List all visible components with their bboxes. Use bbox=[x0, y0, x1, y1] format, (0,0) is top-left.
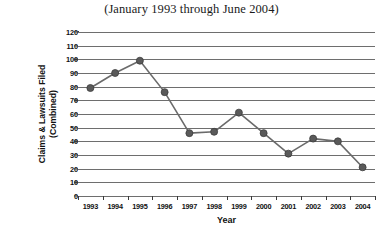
data-point-marker bbox=[235, 109, 242, 116]
x-axis-tick-mark bbox=[128, 196, 129, 200]
x-axis-tick-mark bbox=[152, 196, 153, 200]
x-axis-tick-label: 1994 bbox=[107, 202, 122, 211]
x-axis-tick-label: 2002 bbox=[305, 202, 320, 211]
data-point-marker bbox=[359, 164, 366, 171]
x-axis-tick-mark bbox=[103, 196, 104, 200]
data-point-marker bbox=[87, 85, 94, 92]
x-axis-tick-mark bbox=[177, 196, 178, 200]
data-point-marker bbox=[186, 130, 193, 137]
x-axis-tick-label: 1998 bbox=[206, 202, 221, 211]
data-point-marker bbox=[310, 135, 317, 142]
data-series-line bbox=[78, 32, 375, 196]
x-axis-tick-label: 2000 bbox=[256, 202, 271, 211]
data-point-marker bbox=[211, 128, 218, 135]
plot-area bbox=[78, 32, 375, 196]
x-axis-tick-mark bbox=[326, 196, 327, 200]
data-point-marker bbox=[334, 138, 341, 145]
data-point-marker bbox=[260, 130, 267, 137]
x-axis-tick-label: 1996 bbox=[157, 202, 172, 211]
data-point-marker bbox=[285, 150, 292, 157]
y-axis-ticks: 0102030405060708090100110120 bbox=[42, 0, 78, 236]
x-axis-tick-mark bbox=[276, 196, 277, 200]
x-axis-tick-label: 1995 bbox=[132, 202, 147, 211]
y-axis-title: Claims & Lawsuits Filed (Combined) bbox=[14, 30, 40, 198]
x-axis-tick-mark bbox=[301, 196, 302, 200]
x-axis-tick-label: 2001 bbox=[281, 202, 296, 211]
x-axis-tick-mark bbox=[227, 196, 228, 200]
data-point-marker bbox=[112, 70, 119, 77]
series-polyline bbox=[90, 61, 362, 168]
x-axis-tick-label: 1999 bbox=[231, 202, 246, 211]
x-axis-tick-label: 2004 bbox=[355, 202, 370, 211]
x-axis-tick-mark bbox=[375, 196, 376, 200]
x-axis-tick-mark bbox=[251, 196, 252, 200]
x-axis-tick-mark bbox=[350, 196, 351, 200]
data-point-marker bbox=[161, 89, 168, 96]
chart-root: (January 1993 through June 2004) Claims … bbox=[0, 0, 383, 236]
x-axis-tick-mark bbox=[202, 196, 203, 200]
x-axis-tick-label: 2003 bbox=[330, 202, 345, 211]
x-axis-tick-mark bbox=[78, 196, 79, 200]
x-axis-tick-label: 1997 bbox=[182, 202, 197, 211]
x-axis-title: Year bbox=[78, 215, 375, 225]
x-axis-tick-label: 1993 bbox=[83, 202, 98, 211]
data-point-marker bbox=[136, 57, 143, 64]
